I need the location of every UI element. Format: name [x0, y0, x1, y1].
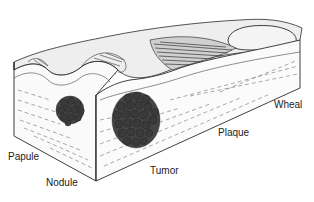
label-plaque: Plaque [218, 128, 249, 138]
label-nodule: Nodule [46, 178, 78, 188]
skin-lesion-diagram: Papule Nodule Tumor Plaque Wheal [0, 0, 314, 202]
tumor-cluster [112, 92, 160, 148]
label-tumor: Tumor [150, 166, 179, 176]
label-papule: Papule [8, 152, 39, 162]
label-wheal: Wheal [274, 100, 302, 110]
